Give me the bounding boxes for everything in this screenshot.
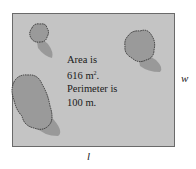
tree-top-right-icon — [122, 28, 166, 74]
area-perimeter-caption: Area is 616 m2. Perimeter is 100 m. — [67, 53, 117, 109]
tree-top-left-icon — [26, 22, 58, 60]
tree-bottom-left-icon — [10, 72, 66, 138]
area-value: 616 m2. — [67, 67, 117, 83]
width-label: w — [181, 72, 188, 84]
perimeter-label: Perimeter is — [67, 82, 117, 96]
area-label: Area is — [67, 53, 117, 67]
perimeter-value: 100 m. — [67, 96, 117, 110]
length-label: l — [87, 150, 90, 162]
